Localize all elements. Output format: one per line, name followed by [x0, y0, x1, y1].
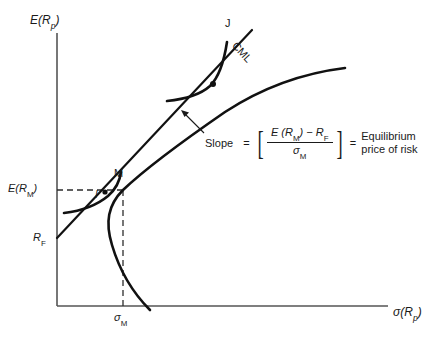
y-axis-label-close: ) [55, 13, 59, 27]
indifference-curve-j-label: J [225, 18, 231, 29]
indifference-curve-j [167, 42, 227, 101]
efficient-frontier-curve [108, 68, 345, 310]
x-axis-label-text: σ(R [393, 305, 413, 319]
slope-equals-sign-2: = [350, 137, 356, 149]
y-axis-label-text: E [30, 13, 38, 27]
y-axis-label: E(Rp) [30, 14, 59, 29]
y-intercept-subscript: F [41, 239, 46, 248]
diagram-canvas [0, 0, 444, 348]
x-axis-label-close: ) [418, 305, 422, 319]
x-tick-label-sigma-m: σM [114, 312, 127, 326]
slope-leader-arrowhead [181, 110, 189, 117]
tangency-point-j [210, 81, 216, 87]
tangency-point-i [102, 189, 107, 194]
equilibrium-line-2: price of risk [361, 143, 417, 155]
slope-bracketed-expression: [ E (RM) − RF σM ] [255, 126, 345, 159]
slope-word-label: Slope [205, 137, 233, 149]
y-tick-label-expected-return-m: E(RM) [8, 183, 37, 197]
equilibrium-price-of-risk-label: Equilibrium price of risk [361, 130, 417, 155]
cml-diagram: E(Rp) σ(Rp) E(RM) RF σM M I J CML Slope … [0, 0, 444, 348]
numerator-lead: E (R [271, 126, 293, 138]
indifference-curve-i-label: I [95, 190, 98, 200]
y-intercept-label-risk-free: RF [33, 232, 46, 246]
slope-equals-sign-1: = [243, 137, 249, 149]
slope-denominator: σM [289, 143, 310, 159]
y-tick-text: E(R [8, 182, 27, 194]
x-axis-label-subscript: p [413, 313, 418, 323]
y-axis-label-arg: (R [38, 13, 51, 27]
slope-annotation: Slope = [ E (RM) − RF σM ] = Equilibrium… [205, 126, 418, 159]
y-axis-label-subscript: p [51, 21, 56, 31]
x-tick-text: σ [114, 311, 121, 323]
numerator-subscript-m: M [293, 134, 300, 143]
bracket-open: [ [257, 129, 263, 156]
x-tick-subscript: M [121, 319, 128, 328]
slope-fraction: E (RM) − RF σM [267, 126, 333, 159]
slope-leader-line [184, 113, 204, 133]
numerator-mid: ) − R [300, 126, 324, 138]
slope-numerator: E (RM) − RF [267, 126, 333, 142]
y-intercept-text: R [33, 231, 41, 243]
numerator-subscript-f: F [324, 134, 329, 143]
denominator-subscript: M [300, 152, 307, 161]
y-tick-subscript: M [27, 190, 34, 199]
market-portfolio-label: M [114, 168, 123, 179]
y-tick-close: ) [34, 182, 38, 194]
denominator-lead: σ [293, 144, 300, 156]
equilibrium-line-1: Equilibrium [361, 130, 415, 142]
x-axis-label: σ(Rp) [393, 306, 422, 321]
bracket-close: ] [336, 129, 342, 156]
